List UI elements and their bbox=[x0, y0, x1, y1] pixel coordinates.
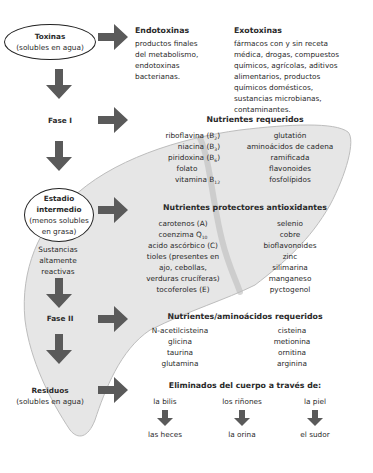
estadio-oval: Estadio intermedio (menos solubles en gr… bbox=[24, 188, 94, 242]
antioxidantes-right: selenio cobre bioflavonoides zinc silima… bbox=[255, 218, 325, 295]
route-from: los riñones bbox=[212, 396, 272, 407]
eliminados-title: Eliminados del cuerpo a través de: bbox=[160, 380, 330, 391]
route-orina: la orina bbox=[212, 429, 272, 440]
nutrient-item: riboflavina (B2) bbox=[140, 130, 220, 141]
toxinas-title: Toxinas bbox=[35, 31, 66, 42]
aminoacid-item: glutamina bbox=[145, 358, 215, 369]
route-to: el sudor bbox=[290, 429, 340, 440]
antioxidantes-left: carotenos (A) coenzima Q10 acido ascórbi… bbox=[140, 218, 226, 295]
route-to: la orina bbox=[212, 429, 272, 440]
antioxidant-item: coenzima Q10 bbox=[140, 229, 226, 240]
sustancias-line2: altamente bbox=[24, 255, 92, 266]
route-rinones: los riñones bbox=[212, 396, 272, 407]
antioxidant-item: zinc bbox=[255, 251, 325, 262]
exotoxinas-line: químicos, agrícolas, aditivos bbox=[234, 60, 339, 71]
endotoxinas-line: productos finales bbox=[135, 38, 198, 49]
nutrient-item: folato bbox=[140, 163, 220, 174]
arrow-right-icon bbox=[98, 24, 128, 50]
exotoxinas-line: médica, drogas, compuestos bbox=[234, 49, 339, 60]
nutrient-item: flavonoides bbox=[240, 163, 340, 174]
antioxidant-item: bioflavonoides bbox=[255, 240, 325, 251]
arrow-right-icon bbox=[98, 306, 128, 332]
route-piel: la piel bbox=[290, 396, 340, 407]
route-from: la piel bbox=[290, 396, 340, 407]
antioxidant-item: silimarina bbox=[255, 262, 325, 273]
antioxidant-item: selenio bbox=[255, 218, 325, 229]
nutrientes-requeridos-title: Nutrientes requeridos bbox=[180, 114, 330, 125]
nutrientes-requeridos-right: glutatión aminoácidos de cadena ramifica… bbox=[240, 130, 340, 185]
antioxidant-item: tioles (presentes en bbox=[140, 251, 226, 262]
estadio-line1: Estadio bbox=[44, 193, 74, 204]
route-bilis: la bilis bbox=[140, 396, 190, 407]
endotoxinas-block: Endotoxinas productos finales del metabo… bbox=[135, 25, 198, 82]
antioxidant-item: cobre bbox=[255, 229, 325, 240]
arrow-down-icon bbox=[46, 69, 72, 99]
nutrient-item: aminoácidos de cadena bbox=[240, 141, 340, 152]
aminoacid-item: ornitina bbox=[262, 347, 322, 358]
sustancias-line1: Sustancias bbox=[24, 244, 92, 255]
arrow-down-icon bbox=[46, 141, 72, 171]
aminoacidos-left: N-acetilcisteina glicina taurina glutami… bbox=[145, 325, 215, 369]
exotoxinas-line: sustancias microbianas, bbox=[234, 93, 339, 104]
nutrient-item: piridoxina (B6) bbox=[140, 152, 220, 163]
toxinas-subtitle: (solubles en agua) bbox=[16, 42, 84, 53]
sustancias-line3: reactivas bbox=[24, 266, 92, 277]
antioxidant-item: manganeso bbox=[255, 273, 325, 284]
endotoxinas-line: bacterianas. bbox=[135, 71, 198, 82]
fase1-label: Fase I bbox=[40, 115, 80, 126]
arrow-down-icon bbox=[234, 410, 250, 426]
aminoacid-item: glicina bbox=[145, 336, 215, 347]
antioxidant-item: carotenos (A) bbox=[140, 218, 226, 229]
endotoxinas-title: Endotoxinas bbox=[135, 25, 198, 36]
aminoacidos-right: cisteina metionina ornitina arginina bbox=[262, 325, 322, 369]
exotoxinas-line: alimentarios, productos bbox=[234, 71, 339, 82]
residuos-subtitle: (solubles en agua) bbox=[2, 396, 98, 407]
estadio-line2: intermedio bbox=[36, 204, 81, 215]
nutrientes-requeridos-left: riboflavina (B2) niacina (B3) piridoxina… bbox=[140, 130, 220, 185]
route-heces: las heces bbox=[140, 429, 190, 440]
aminoacid-item: arginina bbox=[262, 358, 322, 369]
estadio-line3: (menos solubles bbox=[29, 215, 89, 226]
antioxidant-item: ajo, cebollas, bbox=[140, 262, 226, 273]
fase2-label: Fase II bbox=[38, 313, 82, 324]
antioxidantes-title: Nutrientes protectores antioxidantes bbox=[160, 202, 330, 213]
arrow-right-icon bbox=[98, 197, 128, 223]
arrow-right-icon bbox=[98, 107, 128, 133]
nutrient-item: fosfolípidos bbox=[240, 174, 340, 185]
estadio-line4: en grasa) bbox=[42, 226, 77, 237]
toxinas-oval: Toxinas (solubles en agua) bbox=[4, 24, 96, 60]
exotoxinas-line: químicos domésticos, bbox=[234, 82, 339, 93]
exotoxinas-line: fármacos con y sin receta bbox=[234, 38, 339, 49]
endotoxinas-line: del metabolismo, bbox=[135, 49, 198, 60]
exotoxinas-block: Exotoxinas fármacos con y sin receta méd… bbox=[234, 25, 339, 115]
route-from: la bilis bbox=[140, 396, 190, 407]
aminoacid-item: cisteina bbox=[262, 325, 322, 336]
exotoxinas-title: Exotoxinas bbox=[234, 25, 339, 36]
route-sudor: el sudor bbox=[290, 429, 340, 440]
antioxidant-item: tocoferoles (E) bbox=[140, 284, 226, 295]
arrow-right-icon bbox=[98, 377, 128, 403]
aminoacid-item: metionina bbox=[262, 336, 322, 347]
antioxidant-item: verduras crucíferas) bbox=[140, 273, 226, 284]
arrow-down-icon bbox=[46, 334, 72, 364]
antioxidant-item: acido ascórbico (C) bbox=[140, 240, 226, 251]
residuos-label: Residuos (solubles en agua) bbox=[2, 385, 98, 407]
nutrient-item: glutatión bbox=[240, 130, 340, 141]
sustancias-label: Sustancias altamente reactivas bbox=[24, 244, 92, 277]
aminoacid-item: N-acetilcisteina bbox=[145, 325, 215, 336]
residuos-title: Residuos bbox=[2, 385, 98, 396]
endotoxinas-line: endotoxinas bbox=[135, 60, 198, 71]
arrow-down-icon bbox=[46, 278, 72, 308]
route-to: las heces bbox=[140, 429, 190, 440]
arrow-down-icon bbox=[157, 410, 173, 426]
aminoacid-item: taurina bbox=[145, 347, 215, 358]
aminoacidos-title: Nutrientes/aminoácidos requeridos bbox=[165, 311, 325, 322]
arrow-down-icon bbox=[307, 410, 323, 426]
nutrient-item: vitamina B12 bbox=[140, 174, 220, 185]
nutrient-item: niacina (B3) bbox=[140, 141, 220, 152]
antioxidant-item: pyctogenol bbox=[255, 284, 325, 295]
nutrient-item: ramificada bbox=[240, 152, 340, 163]
